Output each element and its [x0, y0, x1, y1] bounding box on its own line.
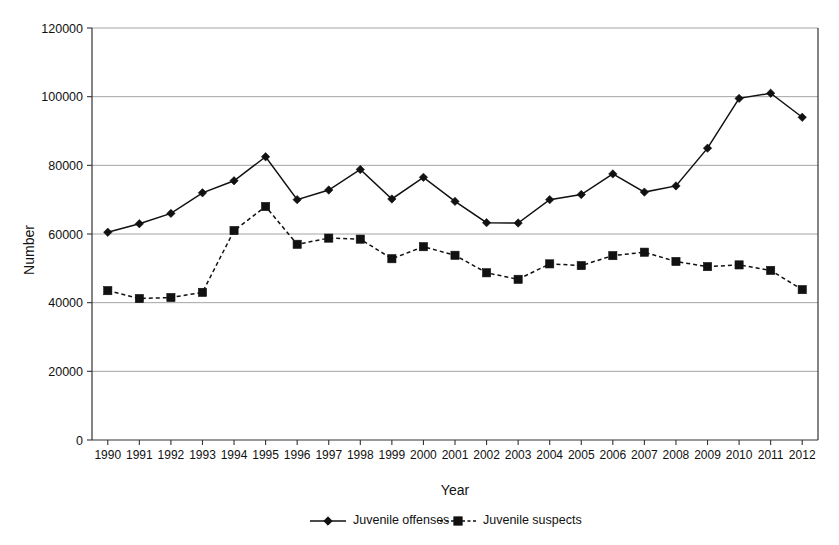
- y-tick-label: 40000: [48, 296, 83, 310]
- data-point-marker: [735, 261, 743, 269]
- data-point-marker: [104, 287, 112, 295]
- data-point-marker: [703, 263, 711, 271]
- y-tick-label: 100000: [41, 90, 83, 104]
- x-tick-label: 2009: [694, 448, 721, 462]
- x-tick-label: 2000: [410, 448, 437, 462]
- data-point-marker: [577, 261, 585, 269]
- data-point-marker: [198, 288, 206, 296]
- data-point-marker: [135, 294, 143, 302]
- data-point-marker: [640, 248, 648, 256]
- x-tick-label: 2010: [726, 448, 753, 462]
- data-point-marker: [388, 255, 396, 263]
- legend-label: Juvenile suspects: [483, 513, 582, 527]
- data-point-marker: [325, 234, 333, 242]
- x-tick-label: 2003: [505, 448, 532, 462]
- y-tick-label: 60000: [48, 228, 83, 242]
- data-point-marker: [451, 251, 459, 259]
- x-tick-label: 1990: [94, 448, 121, 462]
- x-axis-title: Year: [441, 482, 470, 498]
- line-chart: 020000400006000080000100000120000 199019…: [0, 0, 839, 545]
- data-point-marker: [546, 260, 554, 268]
- data-point-marker: [356, 235, 364, 243]
- x-tick-label: 2007: [631, 448, 658, 462]
- chart-canvas: 020000400006000080000100000120000 199019…: [0, 0, 839, 545]
- x-tick-label: 2002: [473, 448, 500, 462]
- data-point-marker: [293, 240, 301, 248]
- y-axis-title: Number: [21, 225, 37, 275]
- data-point-marker: [167, 293, 175, 301]
- y-tick-label: 20000: [48, 365, 83, 379]
- data-point-marker: [798, 286, 806, 294]
- x-tick-label: 1997: [315, 448, 342, 462]
- data-point-marker: [767, 266, 775, 274]
- x-tick-label: 1995: [252, 448, 279, 462]
- x-tick-label: 1991: [126, 448, 153, 462]
- x-tick-label: 2005: [568, 448, 595, 462]
- x-tick-label: 1993: [189, 448, 216, 462]
- x-tick-label: 1999: [379, 448, 406, 462]
- y-tick-label: 0: [76, 434, 83, 448]
- data-point-marker: [419, 243, 427, 251]
- x-tick-label: 2012: [789, 448, 816, 462]
- data-point-marker: [609, 252, 617, 260]
- x-axis-ticks: 1990199119921993199419951996199719981999…: [94, 440, 815, 462]
- x-tick-label: 1994: [221, 448, 248, 462]
- x-tick-label: 2006: [599, 448, 626, 462]
- data-point-marker: [230, 226, 238, 234]
- chart-background: [0, 0, 839, 545]
- x-tick-label: 2008: [663, 448, 690, 462]
- legend-label: Juvenile offenses: [353, 513, 449, 527]
- x-tick-label: 1998: [347, 448, 374, 462]
- x-tick-label: 1992: [158, 448, 185, 462]
- x-tick-label: 1996: [284, 448, 311, 462]
- x-tick-label: 2011: [758, 448, 784, 462]
- y-tick-label: 80000: [48, 159, 83, 173]
- data-point-marker: [514, 275, 522, 283]
- legend-marker: [454, 517, 462, 525]
- data-point-marker: [482, 269, 490, 277]
- data-point-marker: [262, 202, 270, 210]
- x-tick-label: 2004: [536, 448, 563, 462]
- data-point-marker: [672, 257, 680, 265]
- x-tick-label: 2001: [442, 448, 469, 462]
- y-tick-label: 120000: [41, 22, 83, 36]
